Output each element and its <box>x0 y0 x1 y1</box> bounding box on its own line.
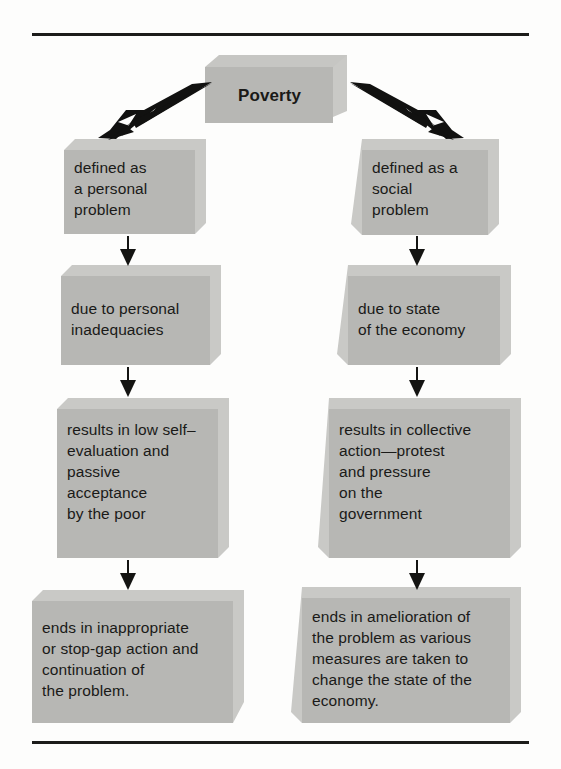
node-right-4: ends in amelioration of the problem as v… <box>302 598 510 723</box>
node-left-2: due to personal inadequacies <box>61 276 210 365</box>
connector-left-3 <box>117 560 139 590</box>
node-left-3: results in low self– evaluation and pass… <box>57 409 218 558</box>
connector-right-1 <box>406 236 428 266</box>
node-right-3: results in collective action—protest and… <box>329 409 510 558</box>
connector-poverty-to-left <box>96 80 212 142</box>
node-left-1: defined as a personal problem <box>64 150 195 234</box>
node-right-1: defined as a social problem <box>362 150 488 235</box>
connector-left-1 <box>117 236 139 266</box>
connector-poverty-to-right <box>350 80 466 142</box>
connector-right-2 <box>406 367 428 397</box>
flowchart-figure: Poverty defined as a personal problem du… <box>0 0 561 769</box>
node-right-2: due to state of the economy <box>348 276 500 365</box>
connector-left-2 <box>117 367 139 397</box>
connector-right-3 <box>406 560 428 590</box>
bottom-divider-rule <box>32 741 529 744</box>
node-poverty: Poverty <box>205 67 333 123</box>
top-divider-rule <box>32 33 529 36</box>
poverty-box-top-face <box>205 55 347 67</box>
node-left-4: ends in inappropriate or stop-gap action… <box>32 601 233 723</box>
